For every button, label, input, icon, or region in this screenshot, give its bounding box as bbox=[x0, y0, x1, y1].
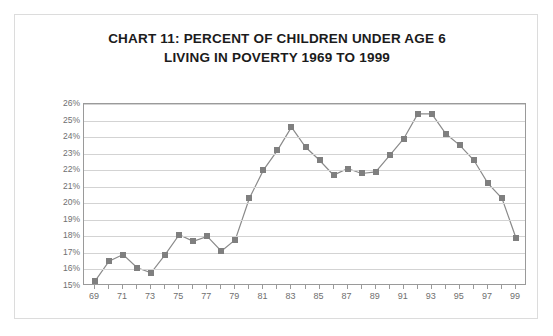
x-axis-tick-label: 71 bbox=[117, 291, 127, 301]
data-point-marker bbox=[190, 238, 196, 244]
chart-title: CHART 11: PERCENT OF CHILDREN UNDER AGE … bbox=[15, 29, 539, 67]
data-point-marker bbox=[387, 152, 393, 158]
gridline bbox=[84, 203, 525, 204]
x-axis-tick bbox=[276, 285, 277, 289]
x-axis-tick-label: 93 bbox=[426, 291, 436, 301]
x-axis-tick-label: 83 bbox=[285, 291, 295, 301]
x-axis-tick-label: 97 bbox=[482, 291, 492, 301]
data-point-marker bbox=[415, 111, 421, 117]
gridline bbox=[84, 104, 525, 105]
x-axis-tick bbox=[375, 285, 376, 289]
data-point-marker bbox=[218, 248, 224, 254]
data-point-marker bbox=[204, 233, 210, 239]
x-axis-tick bbox=[234, 285, 235, 289]
x-axis-tick-label: 95 bbox=[454, 291, 464, 301]
y-axis-tick-label: 16% bbox=[56, 263, 80, 273]
data-point-marker bbox=[429, 111, 435, 117]
x-axis-tick bbox=[122, 285, 123, 289]
data-point-marker bbox=[162, 252, 168, 258]
gridline bbox=[84, 253, 525, 254]
x-axis-tick-label: 91 bbox=[398, 291, 408, 301]
data-point-marker bbox=[373, 169, 379, 175]
gridline bbox=[84, 154, 525, 155]
gridline bbox=[84, 137, 525, 138]
x-axis-tick bbox=[487, 285, 488, 289]
x-axis-tick bbox=[206, 285, 207, 289]
x-axis-tick-label: 81 bbox=[257, 291, 267, 301]
x-axis-tick bbox=[431, 285, 432, 289]
y-axis-tick-label: 19% bbox=[56, 214, 80, 224]
data-point-marker bbox=[148, 270, 154, 276]
data-point-marker bbox=[317, 157, 323, 163]
data-point-marker bbox=[106, 258, 112, 264]
x-axis-tick bbox=[361, 285, 362, 289]
x-axis-tick bbox=[319, 285, 320, 289]
x-axis-tick bbox=[94, 285, 95, 289]
x-axis-tick-label: 85 bbox=[314, 291, 324, 301]
x-axis-tick-label: 77 bbox=[201, 291, 211, 301]
gridline bbox=[84, 236, 525, 237]
x-axis-tick bbox=[333, 285, 334, 289]
gridline bbox=[84, 187, 525, 188]
data-point-marker bbox=[246, 195, 252, 201]
x-axis-tick bbox=[417, 285, 418, 289]
x-axis-tick bbox=[136, 285, 137, 289]
chart-frame: CHART 11: PERCENT OF CHILDREN UNDER AGE … bbox=[14, 14, 538, 319]
x-axis-ticks bbox=[83, 285, 526, 290]
plot-wrapper: 26%25%24%23%22%21%20%19%18%17%16%15% 697… bbox=[56, 103, 526, 289]
x-axis-tick bbox=[403, 285, 404, 289]
x-axis-tick-label: 79 bbox=[229, 291, 239, 301]
x-axis-tick bbox=[347, 285, 348, 289]
x-axis-tick bbox=[164, 285, 165, 289]
gridline bbox=[84, 170, 525, 171]
y-axis-tick-label: 24% bbox=[56, 131, 80, 141]
x-axis-labels: 69717375777981838587899193959799 bbox=[83, 291, 526, 307]
y-axis-tick-label: 21% bbox=[56, 181, 80, 191]
x-axis-tick bbox=[473, 285, 474, 289]
x-axis-tick-label: 69 bbox=[89, 291, 99, 301]
data-point-marker bbox=[513, 235, 519, 241]
y-axis-tick-label: 18% bbox=[56, 230, 80, 240]
x-axis-tick bbox=[515, 285, 516, 289]
chart-page: CHART 11: PERCENT OF CHILDREN UNDER AGE … bbox=[0, 0, 553, 336]
series-line bbox=[84, 104, 526, 285]
x-axis-tick bbox=[305, 285, 306, 289]
x-axis-tick bbox=[389, 285, 390, 289]
data-point-marker bbox=[92, 278, 98, 284]
plot-area bbox=[83, 103, 526, 285]
x-axis-tick-label: 75 bbox=[173, 291, 183, 301]
x-axis-tick bbox=[150, 285, 151, 289]
data-point-marker bbox=[274, 147, 280, 153]
x-axis-tick bbox=[262, 285, 263, 289]
data-point-marker bbox=[176, 232, 182, 238]
data-point-marker bbox=[303, 144, 309, 150]
y-axis-tick-label: 23% bbox=[56, 148, 80, 158]
y-axis-tick-label: 22% bbox=[56, 164, 80, 174]
data-point-marker bbox=[331, 172, 337, 178]
x-axis-tick bbox=[192, 285, 193, 289]
y-axis-tick-label: 17% bbox=[56, 247, 80, 257]
y-axis-tick-label: 20% bbox=[56, 197, 80, 207]
x-axis-tick bbox=[108, 285, 109, 289]
x-axis-tick-label: 87 bbox=[342, 291, 352, 301]
x-axis-tick bbox=[220, 285, 221, 289]
data-point-marker bbox=[443, 131, 449, 137]
x-axis-tick bbox=[178, 285, 179, 289]
chart-title-line-1: CHART 11: PERCENT OF CHILDREN UNDER AGE … bbox=[108, 31, 446, 46]
x-axis-tick bbox=[501, 285, 502, 289]
x-axis-tick-label: 73 bbox=[145, 291, 155, 301]
x-axis-tick bbox=[459, 285, 460, 289]
data-point-marker bbox=[134, 265, 140, 271]
x-axis-tick-label: 99 bbox=[510, 291, 520, 301]
x-axis-tick bbox=[445, 285, 446, 289]
data-point-marker bbox=[260, 167, 266, 173]
x-axis-tick bbox=[248, 285, 249, 289]
data-point-marker bbox=[345, 166, 351, 172]
data-point-marker bbox=[359, 170, 365, 176]
y-axis-tick-label: 26% bbox=[56, 98, 80, 108]
x-axis-tick-label: 89 bbox=[370, 291, 380, 301]
gridline bbox=[84, 220, 525, 221]
x-axis-tick bbox=[290, 285, 291, 289]
data-point-marker bbox=[499, 195, 505, 201]
data-point-marker bbox=[120, 252, 126, 258]
